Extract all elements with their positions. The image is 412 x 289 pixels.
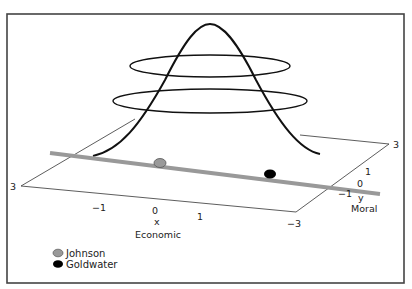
x-tick-0: 0 xyxy=(152,205,158,216)
plane-front-edge xyxy=(21,186,296,212)
plane-right-edge xyxy=(296,144,389,212)
x-tick-neg1: −1 xyxy=(92,202,106,213)
legend: Johnson Goldwater xyxy=(53,248,118,270)
goldwater-marker xyxy=(264,170,276,179)
legend-johnson-icon xyxy=(53,249,63,257)
plane-back-edge xyxy=(300,135,389,144)
x-axis-label: Economic xyxy=(135,229,181,240)
x-axis-name: x xyxy=(154,216,160,227)
legend-goldwater-label: Goldwater xyxy=(66,259,118,270)
y-axis-name: y xyxy=(358,192,364,203)
legend-goldwater-icon xyxy=(53,260,63,268)
x-tick-3: 3 xyxy=(10,181,16,192)
johnson-marker xyxy=(154,159,166,168)
y-tick-0: 0 xyxy=(357,178,363,189)
y-tick-3: 3 xyxy=(393,139,399,150)
policy-plane xyxy=(21,119,389,212)
bell-curve xyxy=(93,24,320,156)
issue-line xyxy=(50,153,380,194)
plane-back-left-edge xyxy=(21,119,135,186)
contour-ring-lower xyxy=(113,89,307,113)
spatial-voting-diagram: 3 −1 0 1 −3 x Economic 3 1 0 −1 y Moral … xyxy=(0,0,412,289)
x-tick-neg3: −3 xyxy=(287,218,301,229)
x-tick-1: 1 xyxy=(197,211,203,222)
legend-johnson-label: Johnson xyxy=(65,248,105,259)
y-tick-neg1: −1 xyxy=(338,188,352,199)
contour-ring-upper xyxy=(130,55,290,77)
y-axis-label: Moral xyxy=(351,203,377,214)
y-tick-1: 1 xyxy=(365,166,371,177)
